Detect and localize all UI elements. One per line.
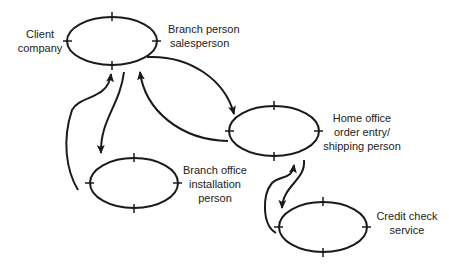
node-credit-check [274,197,371,257]
label-line: installation [180,177,250,191]
label-branch-salesperson: Branch person salesperson [168,22,240,50]
edge-client-to-installation [101,72,124,153]
label-line: service [372,223,442,237]
node-branch-installation [85,153,182,213]
label-line: company [10,41,70,55]
label-line: Credit check [372,209,442,223]
label-line: Client [10,27,70,41]
label-line: person [180,191,250,205]
label-line: order entry/ [322,125,402,139]
label-line: shipping person [322,139,402,153]
label-credit-check: Credit check service [372,209,442,237]
label-line: Branch person [168,22,240,36]
label-line: Branch office [180,163,250,177]
label-line: salesperson [168,36,240,50]
edge-salesperson-to-home-office [147,57,234,114]
label-home-office: Home office order entry/ shipping person [322,111,402,153]
node-home-office [225,101,323,161]
label-branch-installation: Branch office installation person [180,163,250,205]
node-client-salesperson [63,12,161,70]
label-client-company: Client company [10,27,70,55]
label-line: Home office [322,111,402,125]
